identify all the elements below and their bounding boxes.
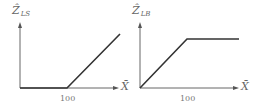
zls-line: [20, 34, 120, 88]
x-axis-arrow-icon: [233, 86, 239, 90]
y-axis-arrow-icon: [18, 22, 22, 28]
x-tick-100: 100: [180, 94, 195, 103]
x-axis-arrow-icon: [113, 86, 119, 90]
y-axis-label-sub: LB: [141, 10, 151, 18]
chart-right-zlb: ẐLB X̄ 100: [120, 0, 260, 106]
chart-left-zls: ẐLS X̄ 100: [0, 0, 130, 106]
y-axis-label-main: Ẑ: [12, 4, 20, 17]
y-axis-arrow-icon: [138, 22, 142, 28]
x-axis-label: X̄: [241, 80, 249, 93]
y-axis-label-sub: LS: [21, 10, 30, 18]
y-axis-label: ẐLB: [132, 4, 150, 18]
x-tick-100: 100: [60, 94, 75, 103]
zlb-line: [140, 39, 239, 88]
y-axis-label: ẐLS: [12, 4, 30, 18]
y-axis-label-main: Ẑ: [132, 4, 140, 17]
